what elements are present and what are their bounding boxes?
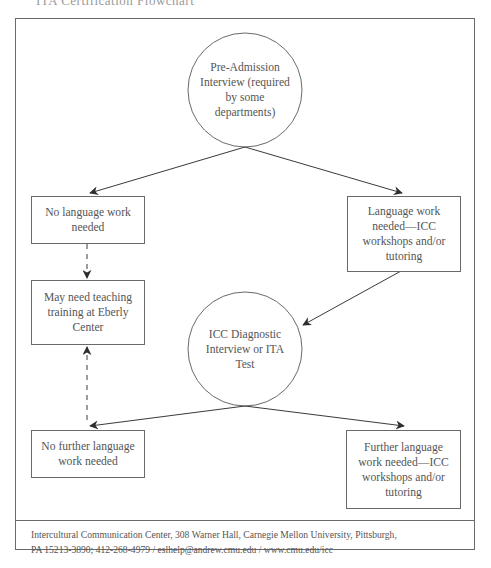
no-language-work-box: No language work needed (31, 196, 145, 244)
icc-diagnostic-label: ICC Diagnostic Interview or ITA Test (205, 327, 285, 372)
further-work-needed-box: Further language work needed—ICC worksho… (346, 430, 461, 509)
further-work-needed-label: Further language work needed—ICC worksho… (357, 440, 450, 500)
teaching-training-box: May need teaching training at Eberly Cen… (31, 280, 145, 345)
pre-admission-label: Pre-Admission Interview (required by som… (197, 60, 293, 120)
arrow-pre-to-language-needed (245, 147, 402, 193)
language-work-needed-box: Language work needed—ICC workshops and/o… (347, 196, 461, 272)
no-further-work-box: No further language work needed (31, 430, 145, 478)
footer-divider (15, 520, 475, 521)
teaching-training-label: May need teaching training at Eberly Cen… (36, 290, 140, 335)
no-language-work-label: No language work needed (38, 205, 138, 235)
arrow-language-to-diagnostic (303, 271, 401, 325)
footer-line-1: Intercultural Communication Center, 308 … (31, 527, 471, 542)
language-work-needed-label: Language work needed—ICC workshops and/o… (354, 204, 454, 264)
arrow-pre-to-no-language (90, 147, 245, 193)
footer-contact: Intercultural Communication Center, 308 … (31, 527, 471, 557)
arrow-diagnostic-to-no-further (90, 406, 245, 426)
arrow-diagnostic-to-further-needed (245, 406, 404, 426)
footer-line-2: PA 15213-3890; 412-268-4979 / eslhelp@an… (31, 542, 471, 557)
no-further-work-label: No further language work needed (36, 439, 140, 469)
